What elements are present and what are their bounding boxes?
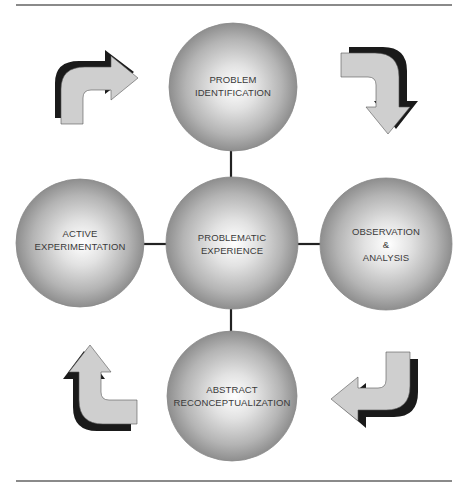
curved-arrow-left-icon (331, 352, 418, 428)
curved-arrow-down-icon (341, 47, 418, 134)
node-abstract-reconceptualization (167, 331, 297, 461)
node-observation-analysis (320, 178, 452, 310)
node-active-experimentation (16, 179, 144, 307)
node-problematic-experience (166, 177, 298, 309)
node-problem-identification (169, 23, 297, 151)
curved-arrow-up-icon (63, 345, 137, 431)
curved-arrow-right-icon (55, 50, 138, 124)
cycle-diagram (0, 0, 469, 488)
